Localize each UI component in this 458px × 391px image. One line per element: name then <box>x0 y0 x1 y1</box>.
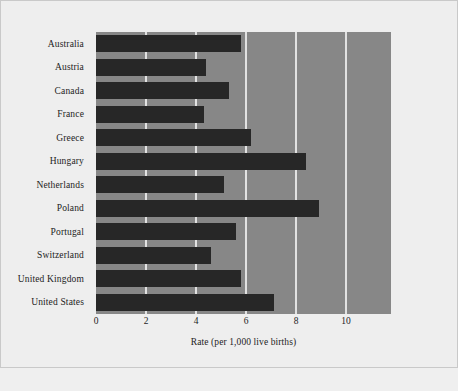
bar-row <box>96 150 391 174</box>
category-label-canada: Canada <box>1 79 90 103</box>
x-tick-label-6: 6 <box>244 316 249 326</box>
bar-united-states[interactable] <box>96 294 274 311</box>
bar-row <box>96 79 391 103</box>
bar-austria[interactable] <box>96 59 206 76</box>
category-axis: Australia Austria Canada France Greece H… <box>1 32 90 314</box>
bar-greece[interactable] <box>96 129 251 146</box>
bar-canada[interactable] <box>96 82 229 99</box>
x-axis-title: Rate (per 1,000 live births) <box>96 337 391 347</box>
x-tick-label-8: 8 <box>294 316 299 326</box>
bar-chart: Australia Austria Canada France Greece H… <box>1 1 458 369</box>
bar-row <box>96 197 391 221</box>
bar-hungary[interactable] <box>96 153 306 170</box>
bar-row <box>96 267 391 291</box>
bar-poland[interactable] <box>96 200 319 217</box>
bar-united-kingdom[interactable] <box>96 270 241 287</box>
category-label-switzerland: Switzerland <box>1 244 90 268</box>
bar-row <box>96 103 391 127</box>
category-label-netherlands: Netherlands <box>1 173 90 197</box>
category-label-united-kingdom: United Kingdom <box>1 267 90 291</box>
x-tick-label-2: 2 <box>144 316 149 326</box>
bar-row <box>96 32 391 56</box>
x-tick-label-4: 4 <box>194 316 199 326</box>
category-label-hungary: Hungary <box>1 150 90 174</box>
category-label-france: France <box>1 103 90 127</box>
category-label-austria: Austria <box>1 56 90 80</box>
plot-area <box>96 32 391 314</box>
bar-row <box>96 291 391 315</box>
bar-france[interactable] <box>96 106 204 123</box>
category-label-greece: Greece <box>1 126 90 150</box>
figure-caption <box>4 381 454 391</box>
bar-row <box>96 56 391 80</box>
category-label-poland: Poland <box>1 197 90 221</box>
bar-row <box>96 126 391 150</box>
bar-netherlands[interactable] <box>96 176 224 193</box>
bar-series <box>96 32 391 314</box>
x-axis: 0246810 <box>96 314 391 334</box>
x-tick-label-10: 10 <box>341 316 351 326</box>
bar-australia[interactable] <box>96 35 241 52</box>
bar-row <box>96 220 391 244</box>
bar-row <box>96 173 391 197</box>
x-tick-label-0: 0 <box>94 316 99 326</box>
bar-switzerland[interactable] <box>96 247 211 264</box>
chart-figure: Australia Austria Canada France Greece H… <box>0 0 458 368</box>
category-label-united-states: United States <box>1 291 90 315</box>
bar-row <box>96 244 391 268</box>
bar-portugal[interactable] <box>96 223 236 240</box>
category-label-portugal: Portugal <box>1 220 90 244</box>
category-label-australia: Australia <box>1 32 90 56</box>
